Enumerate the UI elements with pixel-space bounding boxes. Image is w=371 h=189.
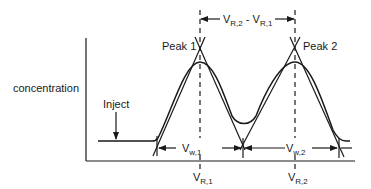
retention-lines [200,10,295,170]
peak-2-left-tangent [240,37,300,150]
retention-1-label: VR,1 [193,171,213,186]
peak-1-label: Peak 1 [162,40,196,52]
width-2-label: Vw,2 [286,142,306,157]
peak-1-left-tangent [153,37,205,156]
y-axis-label: concentration [13,82,79,94]
peak-2-label: Peak 2 [303,40,337,52]
peak-2-right-tangent [290,37,344,157]
baseline-left [98,138,158,141]
inject-label: Inject [103,98,129,110]
peak-1-curve [158,62,256,138]
width-1-label: Vw,1 [182,142,202,157]
tangent-lines [153,37,344,158]
retention-2-label: VR,2 [288,171,308,186]
separation-label: VR,2 - VR,1 [223,13,273,28]
peak-1-right-tangent [195,37,245,150]
peak-2-curve [256,62,350,141]
